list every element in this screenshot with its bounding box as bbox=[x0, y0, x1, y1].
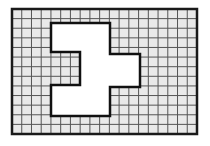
grid-diagram bbox=[0, 0, 210, 146]
